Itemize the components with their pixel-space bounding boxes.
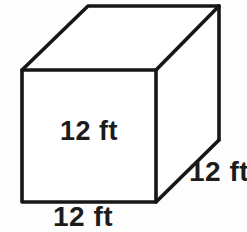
height-dimension-label: 12 ft	[60, 118, 118, 145]
cube-svg	[0, 0, 247, 232]
depth-dimension-label: 12 ft	[189, 158, 247, 186]
cube-diagram-canvas: 12 ft 12 ft 12 ft	[0, 0, 247, 232]
width-dimension-label: 12 ft	[53, 203, 113, 231]
